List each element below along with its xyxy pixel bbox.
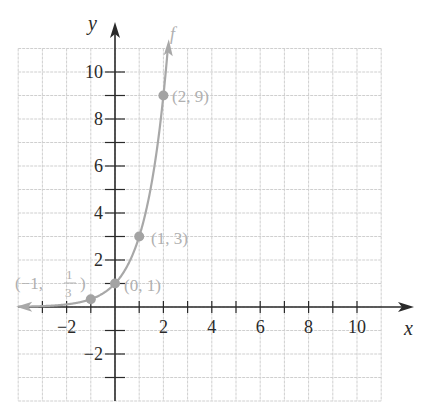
point-label-2-9: (2, 9) (172, 87, 209, 106)
data-point (86, 294, 96, 304)
axes (18, 22, 414, 401)
y-tick-label: 2 (94, 250, 103, 270)
x-tick-label: 10 (348, 317, 366, 337)
data-point (134, 232, 144, 242)
y-tick-label: 4 (94, 203, 103, 223)
point-label-neg1-prefix: (−1, (15, 274, 43, 293)
point-label-1-3: (1, 3) (151, 229, 188, 248)
curve-f (18, 49, 168, 306)
x-tick-label: 4 (207, 317, 216, 337)
curve-label-f: f (170, 24, 178, 44)
data-point (158, 91, 168, 101)
point-label-neg1-numerator: 1 (66, 267, 73, 282)
y-tick-label: −2 (84, 344, 103, 364)
y-tick-label: 6 (94, 156, 103, 176)
data-point (110, 279, 120, 289)
y-tick-label: 10 (85, 62, 103, 82)
x-tick-label: 6 (256, 317, 265, 337)
point-label-0-1: (0, 1) (124, 276, 161, 295)
y-axis-label: y (86, 12, 97, 35)
x-tick-label: 2 (159, 317, 168, 337)
x-axis-label: x (403, 317, 413, 339)
y-tick-label: 8 (94, 109, 103, 129)
point-label-neg1-denominator: 3 (65, 285, 72, 300)
x-tick-label: −2 (57, 317, 76, 337)
point-label-neg1-suffix: ) (80, 274, 86, 293)
x-tick-label: 8 (304, 317, 313, 337)
exponential-graph: −2246810−2246810 x y f (2, 9) (1, 3) (0,… (0, 0, 431, 416)
